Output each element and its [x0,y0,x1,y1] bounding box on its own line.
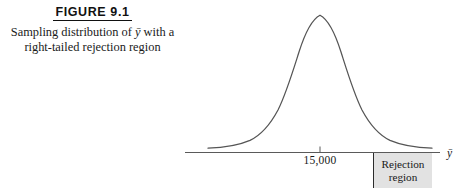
x-axis-label-ybar: ȳ [447,147,452,159]
rejection-region-box: Rejection region [373,153,432,188]
normal-distribution-curve [208,15,432,148]
rejection-region-label-line2: region [389,171,418,184]
figure-caption-block: FIGURE 9.1 Sampling distribution of ȳ w… [0,2,185,54]
rejection-region-label-line1: Rejection [382,158,425,171]
caption-text-part1: Sampling distribution of [11,25,135,39]
caption-text-part2: with a [141,25,175,39]
tick-label-15000: 15,000 [290,154,350,166]
figure-caption-text: Sampling distribution of ȳ with a right… [0,25,185,54]
figure-number-heading: FIGURE 9.1 [53,5,131,21]
caption-line-two: right-tailed rejection region [24,40,160,54]
sampling-distribution-chart: Rejection region 15,000 ȳ [178,0,473,193]
